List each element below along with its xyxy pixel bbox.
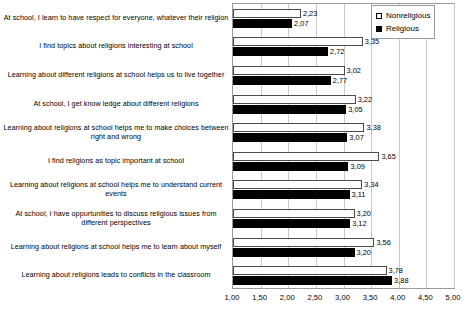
x-tick-label: 3,00 bbox=[335, 293, 350, 302]
gridline bbox=[454, 4, 455, 288]
bar-nonreligious bbox=[233, 152, 379, 161]
category-label: Learning about religions at school helps… bbox=[3, 180, 229, 198]
category-label: Learning about religions leads to confli… bbox=[3, 270, 229, 279]
bar-nonreligious bbox=[233, 66, 345, 75]
bar-religious bbox=[233, 19, 292, 28]
x-axis: 1,001,502,002,503,003,504,004,505,00 bbox=[232, 291, 455, 307]
bar-religious bbox=[233, 105, 346, 114]
x-tick-label: 4,00 bbox=[390, 293, 405, 302]
category-label: Learning about different religions at sc… bbox=[3, 70, 229, 79]
bar-nonreligious bbox=[233, 9, 301, 18]
bar-value-label: 3,12 bbox=[352, 220, 366, 228]
legend-item-religious: Religious bbox=[376, 22, 430, 35]
category-label: At school, I get know ledge about differ… bbox=[3, 99, 229, 108]
filled-square-swatch-icon bbox=[376, 26, 382, 32]
x-tick-label: 1,00 bbox=[225, 293, 240, 302]
plot-area: 2,232,073,352,723,022,773,223,053,383,07… bbox=[232, 3, 455, 289]
bar-value-label: 3,35 bbox=[365, 38, 379, 46]
bar-value-label: 3,20 bbox=[357, 210, 371, 218]
bar-value-label: 2,07 bbox=[294, 20, 308, 28]
bar-nonreligious bbox=[233, 95, 356, 104]
bar-nonreligious bbox=[233, 238, 374, 247]
bar-religious bbox=[233, 190, 350, 199]
legend-label-nonreligious: Nonreligious bbox=[386, 11, 430, 20]
bar-nonreligious bbox=[233, 209, 355, 218]
bar-value-label: 3,20 bbox=[357, 249, 371, 257]
bar-value-label: 3,11 bbox=[352, 191, 366, 199]
category-axis: At school, I learn to have respect for e… bbox=[0, 0, 232, 289]
bar-value-label: 3,05 bbox=[348, 106, 362, 114]
bar-value-label: 2,72 bbox=[330, 48, 344, 56]
category-label: I find topics about religions interestin… bbox=[3, 41, 229, 50]
chart-legend: Nonreligious Religious bbox=[371, 5, 435, 39]
bar-religious bbox=[233, 248, 355, 257]
bar-nonreligious bbox=[233, 180, 362, 189]
bar-group: 3,223,05 bbox=[233, 90, 454, 119]
x-tick-label: 3,50 bbox=[363, 293, 378, 302]
category-label: At school, I learn to have respect for e… bbox=[3, 13, 229, 22]
bar-group: 3,563,20 bbox=[233, 233, 454, 262]
bar-group: 3,383,07 bbox=[233, 118, 454, 147]
bar-religious bbox=[233, 276, 392, 285]
bar-religious bbox=[233, 133, 347, 142]
bar-value-label: 3,65 bbox=[381, 153, 395, 161]
bar-nonreligious bbox=[233, 37, 363, 46]
bar-group: 3,022,77 bbox=[233, 61, 454, 90]
legend-label-religious: Religious bbox=[386, 24, 419, 33]
horizontal-bar-chart: At school, I learn to have respect for e… bbox=[0, 0, 464, 319]
x-tick-label: 1,50 bbox=[252, 293, 267, 302]
bar-nonreligious bbox=[233, 123, 364, 132]
x-tick-label: 2,00 bbox=[280, 293, 295, 302]
bar-value-label: 2,77 bbox=[333, 77, 347, 85]
category-label: Learning about religions at school helps… bbox=[3, 242, 229, 251]
bar-value-label: 3,56 bbox=[376, 239, 390, 247]
category-label: Learning about religions at school helps… bbox=[3, 123, 229, 141]
bar-value-label: 2,23 bbox=[303, 10, 317, 18]
x-tick-label: 2,50 bbox=[307, 293, 322, 302]
x-tick-label: 4,50 bbox=[418, 293, 433, 302]
bar-religious bbox=[233, 76, 331, 85]
bar-religious bbox=[233, 47, 328, 56]
bar-group: 3,203,12 bbox=[233, 204, 454, 233]
bar-group: 3,783,88 bbox=[233, 261, 454, 290]
bar-religious bbox=[233, 162, 348, 171]
bar-nonreligious bbox=[233, 266, 387, 275]
bar-value-label: 3,02 bbox=[347, 67, 361, 75]
bar-value-label: 3,22 bbox=[358, 96, 372, 104]
bar-value-label: 3,34 bbox=[364, 181, 378, 189]
bar-value-label: 3,38 bbox=[366, 124, 380, 132]
bar-value-label: 3,09 bbox=[350, 163, 364, 171]
bar-religious bbox=[233, 219, 350, 228]
category-label: I find religions as topic important at s… bbox=[3, 156, 229, 165]
bar-group: 3,653,09 bbox=[233, 147, 454, 176]
legend-item-nonreligious: Nonreligious bbox=[376, 9, 430, 22]
x-tick-label: 5,00 bbox=[446, 293, 461, 302]
open-square-swatch-icon bbox=[376, 13, 382, 19]
bar-value-label: 3,07 bbox=[349, 134, 363, 142]
bar-value-label: 3,78 bbox=[389, 267, 403, 275]
category-label: At school, I have oppurtunities to discu… bbox=[3, 209, 229, 227]
bar-group: 3,343,11 bbox=[233, 176, 454, 205]
bar-value-label: 3,88 bbox=[394, 277, 408, 285]
